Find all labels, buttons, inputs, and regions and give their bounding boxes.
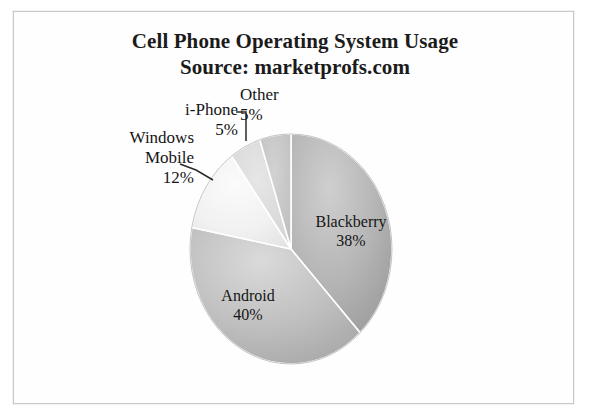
pie-label-other-name: Other — [240, 85, 279, 104]
pie-label-windows-mobile-name2: Mobile — [84, 148, 194, 168]
pie-label-android-value: 40% — [196, 305, 300, 324]
pie-label-other: Other 5% — [240, 85, 310, 125]
pie-label-android-name: Android — [221, 287, 274, 304]
pie-label-iphone-name: i-Phone — [185, 100, 238, 119]
pie-label-windows-mobile-value: 12% — [84, 168, 194, 188]
chart-page: Cell Phone Operating System Usage Source… — [0, 0, 590, 419]
pie-chart: Windows Mobile 12% i-Phone 5% Other 5% B… — [0, 0, 590, 419]
pie-label-other-value: 5% — [240, 105, 310, 125]
pie-label-android: Android 40% — [196, 286, 300, 324]
pie-label-blackberry: Blackberry 38% — [296, 212, 406, 250]
pie-label-iphone-value: 5% — [140, 120, 238, 140]
pie-svg — [0, 0, 590, 419]
pie-label-blackberry-value: 38% — [296, 231, 406, 250]
pie-label-iphone: i-Phone 5% — [140, 100, 238, 140]
pie-label-blackberry-name: Blackberry — [315, 213, 386, 230]
